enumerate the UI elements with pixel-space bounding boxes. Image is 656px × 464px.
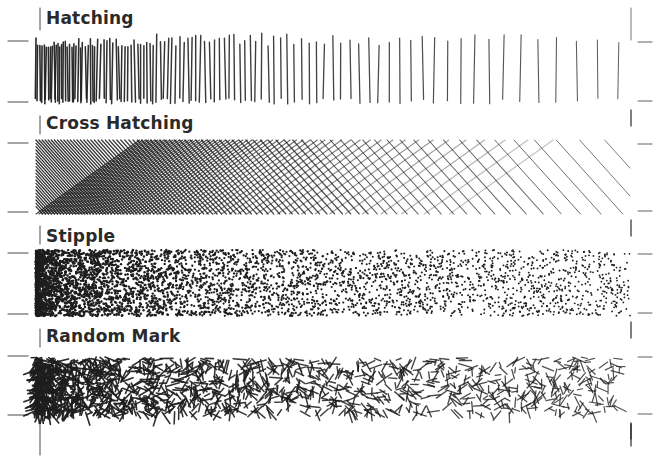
cross-hatching-swatch xyxy=(36,140,630,214)
label-random-mark: Random Mark xyxy=(46,326,180,346)
stipple-swatch xyxy=(35,249,631,317)
random-mark-swatch xyxy=(24,357,626,426)
hatching-swatch xyxy=(35,33,618,104)
label-stipple: Stipple xyxy=(46,226,115,246)
label-hatching: Hatching xyxy=(46,8,134,28)
label-cross-hatching: Cross Hatching xyxy=(46,113,194,133)
